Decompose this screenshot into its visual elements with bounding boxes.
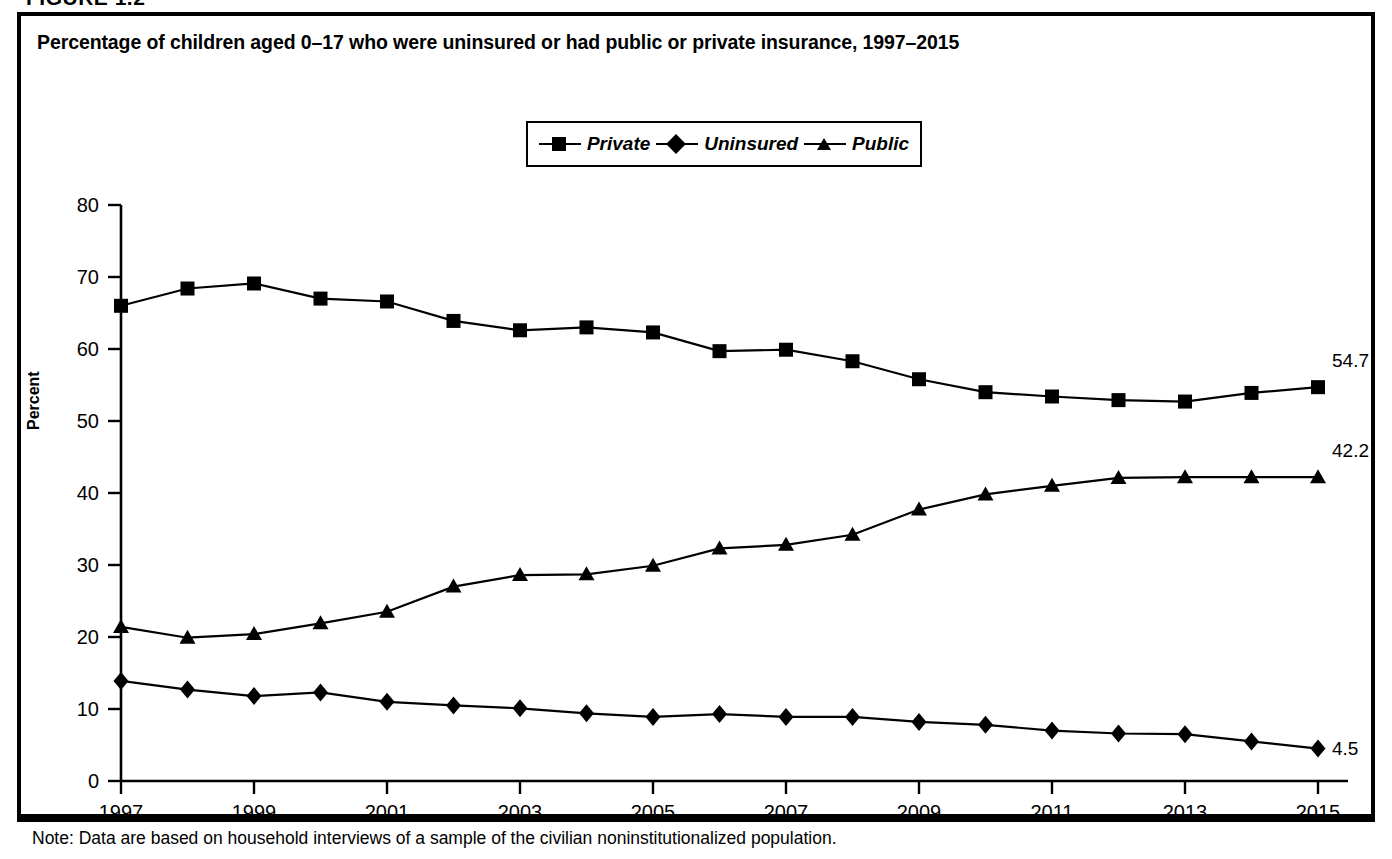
y-tick-label: 80 (59, 194, 99, 217)
note-divider (17, 818, 1375, 822)
legend-label-uninsured: Uninsured (704, 133, 798, 155)
public-marker-icon (804, 137, 846, 151)
y-tick-label: 70 (59, 266, 99, 289)
uninsured-marker-icon (656, 137, 698, 151)
legend-label-private: Private (587, 133, 650, 155)
legend-item-private: Private (539, 133, 650, 155)
y-axis-label: Percent (25, 371, 43, 430)
series-end-label-public: 42.2 (1332, 440, 1369, 462)
chart-legend: Private Uninsured Public (526, 121, 922, 167)
legend-item-public: Public (804, 133, 909, 155)
y-tick-label: 50 (59, 410, 99, 433)
series-end-label-uninsured: 4.5 (1332, 738, 1358, 760)
y-tick-label: 0 (59, 770, 99, 793)
y-tick-label: 10 (59, 698, 99, 721)
figure-screenshot: FIGURE 1.2 Percentage of children aged 0… (0, 0, 1392, 859)
y-tick-label: 60 (59, 338, 99, 361)
private-marker-icon (539, 137, 581, 151)
y-tick-label: 30 (59, 554, 99, 577)
legend-label-public: Public (852, 133, 909, 155)
figure-number-label: FIGURE 1.2 (26, 0, 145, 8)
chart-title: Percentage of children aged 0–17 who wer… (37, 31, 1237, 54)
legend-item-uninsured: Uninsured (656, 133, 798, 155)
series-end-label-private: 54.7 (1332, 350, 1369, 372)
y-tick-label: 20 (59, 626, 99, 649)
chart-note: Note: Data are based on household interv… (32, 828, 837, 849)
y-tick-label: 40 (59, 482, 99, 505)
